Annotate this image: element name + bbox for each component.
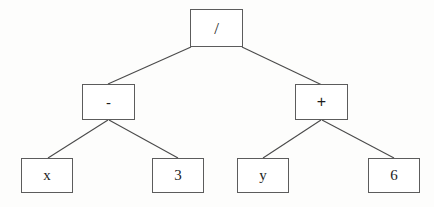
- node-leaf-y-label: y: [259, 168, 267, 183]
- node-plus-label: +: [317, 94, 326, 110]
- tree-edge-left_op-to-leaf_x: [48, 120, 108, 158]
- tree-edge-root-to-right_op: [242, 47, 322, 85]
- node-leaf-6[interactable]: 6: [368, 158, 420, 193]
- node-root-divide[interactable]: /: [190, 9, 243, 47]
- tree-edge-left_op-to-leaf_3: [109, 120, 178, 158]
- node-leaf-x[interactable]: x: [21, 158, 73, 193]
- node-leaf-x-label: x: [43, 168, 51, 183]
- node-leaf-y[interactable]: y: [237, 158, 289, 193]
- node-minus-label: -: [106, 95, 111, 110]
- tree-edge-right_op-to-leaf_y: [263, 120, 321, 158]
- tree-edge-root-to-left_op: [108, 47, 191, 84]
- node-leaf-3[interactable]: 3: [152, 158, 204, 193]
- node-root-label: /: [214, 20, 219, 37]
- expression-tree-diagram: / - + x 3 y 6: [0, 0, 434, 207]
- node-leaf-3-label: 3: [174, 168, 182, 183]
- node-operator-minus[interactable]: -: [82, 84, 135, 120]
- tree-edge-right_op-to-leaf_6: [322, 120, 394, 158]
- node-operator-plus[interactable]: +: [295, 84, 348, 120]
- node-leaf-6-label: 6: [390, 168, 398, 183]
